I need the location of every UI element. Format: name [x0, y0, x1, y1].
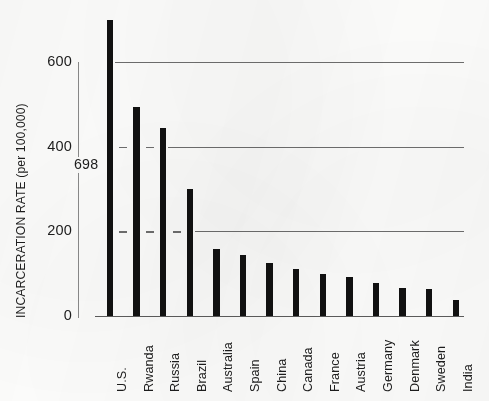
y-axis-tick-label: 200 — [26, 222, 72, 238]
x-axis-tick-label: Russia — [168, 353, 182, 392]
y-axis-tick-label: 600 — [26, 53, 72, 69]
x-axis-tick-label: Denmark — [408, 340, 422, 392]
x-axis-tick-label: Rwanda — [142, 345, 156, 392]
x-axis-tick-mark — [399, 308, 406, 316]
gridline — [168, 147, 464, 148]
x-axis-tick-mark — [293, 308, 300, 316]
x-axis-tick-label: France — [328, 352, 342, 392]
gridline — [115, 62, 464, 63]
incarceration-rate-bar-chart: INCARCERATION RATE (per 100,000) 0200400… — [0, 0, 489, 401]
x-axis-tick-mark — [160, 308, 167, 316]
x-axis-tick-label: China — [275, 359, 289, 392]
gridline-dash-segment — [119, 147, 127, 149]
x-axis-tick-mark — [426, 308, 433, 316]
x-axis-tick-label: Australia — [221, 342, 235, 392]
x-axis-tick-label: Brazil — [195, 360, 209, 392]
x-axis-tick-mark — [266, 308, 273, 316]
x-axis-tick-mark — [240, 308, 247, 316]
x-axis-tick-label: Spain — [248, 359, 262, 392]
x-axis-line — [95, 316, 464, 317]
y-axis-line — [78, 62, 79, 318]
bar — [187, 189, 194, 316]
x-axis-tick-label: Austria — [354, 352, 368, 392]
x-axis-tick-mark — [453, 308, 460, 316]
y-axis-tick-label: 0 — [26, 307, 72, 323]
bar — [160, 128, 167, 316]
x-axis-tick-label: Sweden — [434, 346, 448, 392]
x-axis-tick-mark — [320, 308, 327, 316]
y-axis-tick-label: 400 — [26, 138, 72, 154]
x-axis-tick-mark — [346, 308, 353, 316]
x-axis-tick-label: India — [461, 364, 475, 392]
x-axis-tick-mark — [107, 308, 114, 316]
x-axis-tick-label: Canada — [301, 347, 315, 392]
x-axis-tick-mark — [213, 308, 220, 316]
bar — [107, 20, 114, 316]
x-axis-tick-label: U.S. — [115, 367, 129, 392]
gridline — [195, 231, 464, 232]
value-annotation-us: 698 — [73, 157, 99, 173]
x-axis-tick-mark — [373, 308, 380, 316]
gridline-dash-segment — [119, 231, 127, 233]
x-axis-tick-mark — [187, 308, 194, 316]
gridline-dash-segment — [146, 231, 154, 233]
bar — [213, 249, 220, 316]
gridline-dash-segment — [146, 147, 154, 149]
x-axis-tick-label: Germany — [381, 340, 395, 393]
x-axis-tick-mark — [133, 308, 140, 316]
gridline-dash-segment — [173, 231, 181, 233]
bar — [240, 255, 247, 316]
bar — [133, 107, 140, 316]
